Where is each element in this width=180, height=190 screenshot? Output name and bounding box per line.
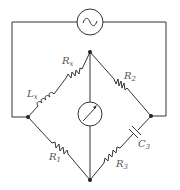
- bridge-circuit-diagram: Rx Lx R2 R1 R3 C3: [0, 0, 180, 190]
- galvanometer-icon: [78, 52, 102, 180]
- resistor-r1: [28, 117, 90, 180]
- ac-source-icon: [77, 9, 103, 35]
- label-r2: R2: [123, 70, 137, 83]
- label-c3: C3: [138, 138, 151, 151]
- label-r3: R3: [115, 158, 129, 171]
- outer-wire: [12, 22, 166, 117]
- label-rx: Rx: [61, 55, 74, 68]
- label-r1: R1: [48, 151, 61, 164]
- label-lx: Lx: [26, 88, 38, 101]
